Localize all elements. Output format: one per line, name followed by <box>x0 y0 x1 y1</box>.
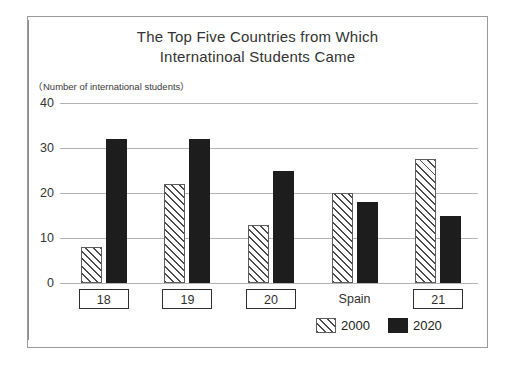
bar-2000-18 <box>81 247 102 283</box>
bar-2020-21 <box>440 216 461 284</box>
x-axis-label-spain: Spain <box>327 289 383 309</box>
y-axis-line <box>28 20 29 340</box>
x-axis-labels: 181920Spain21 <box>60 289 478 311</box>
y-tick-label-40: 40 <box>40 96 54 110</box>
x-axis-label-20: 20 <box>246 289 296 309</box>
bar-2020-spain <box>357 202 378 283</box>
chart-legend: 2000 2020 <box>316 318 442 333</box>
bar-group-18 <box>81 103 127 283</box>
x-axis-label-18: 18 <box>79 289 129 309</box>
gridline-0: 0 <box>60 283 478 284</box>
y-tick-label-30: 30 <box>40 141 54 155</box>
bar-2000-20 <box>248 225 269 284</box>
bar-2020-19 <box>189 139 210 283</box>
y-tick-label-0: 0 <box>47 276 54 290</box>
bar-2020-20 <box>273 171 294 284</box>
chart-title: The Top Five Countries from Which Intern… <box>27 27 488 67</box>
bar-2000-19 <box>164 184 185 283</box>
figure-page: The Top Five Countries from Which Intern… <box>0 0 506 366</box>
bar-group-spain <box>332 103 378 283</box>
legend-item-2020: 2020 <box>388 318 442 333</box>
bar-2000-spain <box>332 193 353 283</box>
bar-group-20 <box>248 103 294 283</box>
bar-group-21 <box>415 103 461 283</box>
legend-item-2000: 2000 <box>316 318 370 333</box>
bar-group-19 <box>164 103 210 283</box>
hatched-swatch-icon <box>316 318 336 333</box>
solid-swatch-icon <box>388 318 408 333</box>
legend-label-2020: 2020 <box>413 318 442 333</box>
bar-2000-21 <box>415 159 436 283</box>
chart-title-line-2: Internatinoal Students Came <box>27 47 488 67</box>
bar-2020-18 <box>106 139 127 283</box>
y-tick-label-20: 20 <box>40 186 54 200</box>
x-axis-label-21: 21 <box>413 289 463 309</box>
plot-area: 010203040 <box>60 103 478 283</box>
legend-label-2000: 2000 <box>341 318 370 333</box>
y-axis-caption: （Number of international students） <box>33 79 190 93</box>
x-axis-label-19: 19 <box>162 289 212 309</box>
y-tick-label-10: 10 <box>40 231 54 245</box>
chart-title-line-1: The Top Five Countries from Which <box>27 27 488 47</box>
